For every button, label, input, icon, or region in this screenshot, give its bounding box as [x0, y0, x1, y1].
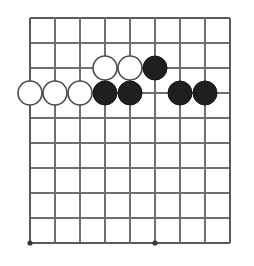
- star-point-1: [27, 240, 32, 245]
- white-stone-d3[interactable]: [93, 56, 117, 80]
- black-stone-e4[interactable]: [118, 81, 142, 105]
- go-board-diagram: [0, 0, 254, 266]
- white-stone-e3[interactable]: [118, 56, 142, 80]
- white-stone-a4[interactable]: [18, 81, 42, 105]
- black-stone-h4[interactable]: [193, 81, 217, 105]
- board-background: [0, 0, 254, 266]
- go-board-svg[interactable]: [0, 0, 254, 266]
- black-stone-d4[interactable]: [93, 81, 117, 105]
- white-stone-c4[interactable]: [68, 81, 92, 105]
- black-stone-g4[interactable]: [168, 81, 192, 105]
- star-point-2: [152, 240, 157, 245]
- black-stone-f3[interactable]: [143, 56, 167, 80]
- white-stone-b4[interactable]: [43, 81, 67, 105]
